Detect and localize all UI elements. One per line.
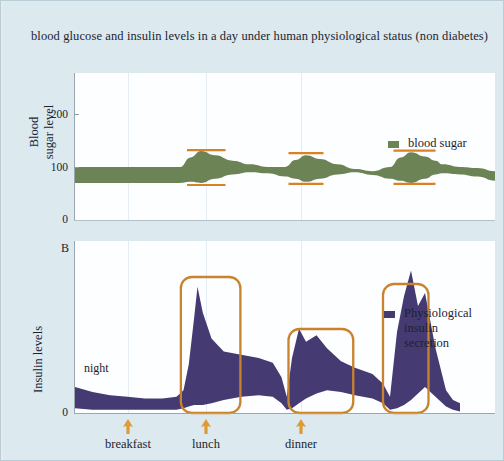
figure-container: blood glucose and insulin levels in a da…: [0, 0, 504, 461]
meal-arrow-dinner: [295, 419, 307, 434]
panel-b-y-axis: [74, 241, 75, 414]
meal-label-breakfast: breakfast: [105, 437, 151, 452]
panel-b-x-axis: [74, 413, 495, 414]
insulin-legend-line2: insulin: [404, 321, 472, 336]
meal-label-lunch: lunch: [192, 437, 220, 452]
meal-label-dinner: dinner: [285, 437, 317, 452]
insulin-legend-line3: secretion: [404, 336, 472, 351]
insulin-legend-line1: Physiological: [404, 306, 472, 321]
night-annotation: night: [84, 361, 109, 376]
panel-b-series-layer: [1, 1, 504, 461]
meal-arrow-lunch: [200, 419, 212, 434]
panel-b-y-axis-title: Insulin levels: [31, 326, 46, 393]
meal-arrow-breakfast: [122, 419, 134, 434]
panel-b-legend: Physiological insulin secretion: [384, 306, 472, 351]
insulin-legend-swatch: [384, 311, 395, 318]
insulin-legend-label: Physiological insulin secretion: [404, 306, 472, 351]
panel-b-ticklabel-0: 0: [34, 406, 68, 418]
